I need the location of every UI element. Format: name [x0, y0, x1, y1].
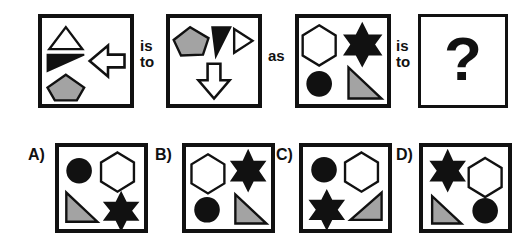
connector-line-2: to — [396, 54, 410, 70]
circle-black — [66, 158, 92, 184]
right-triangle-gray-flipped — [351, 193, 382, 220]
right-triangle-gray — [349, 67, 382, 98]
star-black — [308, 189, 345, 229]
option-c-letter: C) — [276, 147, 293, 163]
connector-is-to-2: is to — [396, 38, 410, 70]
right-triangle-black — [212, 27, 230, 56]
circle-black — [306, 71, 332, 97]
panel-a-content — [42, 18, 130, 104]
panel-c[interactable] — [295, 14, 391, 108]
option-a[interactable] — [55, 143, 148, 233]
panel-b-content — [170, 18, 258, 104]
arrow-down-outline — [198, 64, 229, 99]
hexagon-outline — [469, 158, 502, 197]
connector-as: as — [268, 48, 285, 64]
option-c[interactable] — [299, 143, 392, 233]
panel-question[interactable]: ? — [418, 14, 508, 108]
hexagon-outline — [191, 154, 224, 193]
triangle-outline — [49, 27, 82, 49]
panel-c-content — [299, 18, 387, 104]
circle-black — [311, 157, 337, 183]
arrow-left-outline — [90, 45, 125, 76]
option-d[interactable] — [419, 143, 512, 233]
circle-black — [472, 198, 498, 224]
hexagon-outline — [303, 25, 336, 65]
pentagon-gray — [48, 75, 85, 101]
star-black — [343, 22, 382, 68]
option-a-content — [59, 147, 144, 229]
right-triangle-gray — [235, 194, 266, 223]
option-a-letter: A) — [28, 147, 45, 163]
question-mark: ? — [421, 17, 505, 105]
pentagon-gray — [174, 27, 209, 55]
option-d-content — [423, 147, 508, 229]
connector-line-1: is — [396, 38, 410, 54]
circle-black — [194, 197, 220, 223]
hexagon-outline — [345, 152, 378, 191]
star-black — [103, 191, 140, 229]
right-triangle-black — [48, 55, 85, 71]
option-c-content — [303, 147, 388, 229]
option-b[interactable] — [182, 143, 275, 233]
right-triangle-gray — [432, 196, 461, 223]
panel-b[interactable] — [166, 14, 262, 108]
analogy-puzzle: is to as — [0, 0, 516, 247]
connector-line-2: to — [140, 54, 154, 70]
panel-a[interactable] — [38, 14, 134, 108]
option-d-letter: D) — [396, 147, 413, 163]
option-b-letter: B) — [155, 147, 172, 163]
connector-line-1: is — [140, 38, 154, 54]
option-b-content — [186, 147, 271, 229]
right-triangle-gray — [66, 193, 97, 222]
hexagon-outline — [101, 152, 134, 191]
triangle-right-outline — [234, 29, 252, 53]
connector-is-to-1: is to — [140, 38, 154, 70]
star-black — [429, 149, 466, 193]
connector-line-1: as — [268, 48, 285, 64]
star-black — [230, 149, 267, 193]
